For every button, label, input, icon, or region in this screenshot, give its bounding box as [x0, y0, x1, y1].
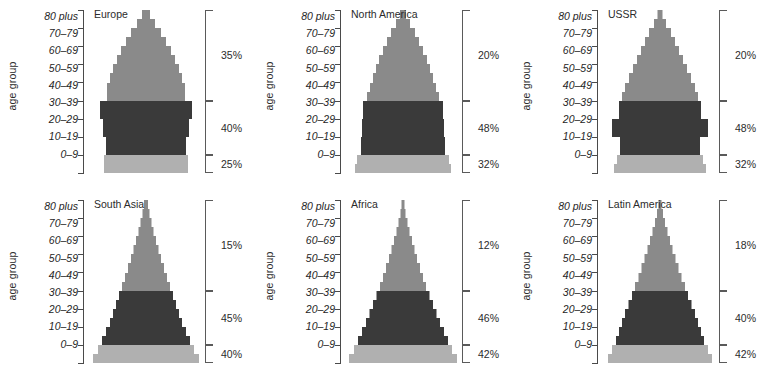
age-band-bar — [122, 282, 170, 291]
age-band-row — [349, 28, 457, 37]
age-band-row — [349, 146, 457, 155]
axis-tick-label: 40–49 — [16, 267, 78, 284]
pyramid-panel: age group80 plus70–7960–6950–5940–4930–3… — [0, 0, 257, 189]
age-band-row — [606, 146, 714, 155]
bracket — [462, 155, 470, 173]
age-band-row — [349, 55, 457, 64]
age-band-bar — [128, 263, 164, 272]
age-band-bar — [110, 318, 182, 327]
axis-tick-label: 10–19 — [16, 318, 78, 335]
bracket-percentage-label: 40% — [735, 312, 756, 324]
age-band-bar — [653, 227, 668, 236]
axis-tick — [592, 363, 598, 364]
axis-tick-label: 40–49 — [273, 77, 335, 94]
age-band-row — [92, 28, 200, 37]
axis-tick — [592, 137, 598, 138]
age-band-bar — [361, 146, 445, 155]
axis-tick-label: 80 plus — [273, 8, 335, 25]
age-band-row — [92, 245, 200, 254]
age-band-bar — [612, 128, 708, 137]
age-band-bar — [639, 273, 682, 282]
age-band-bar — [357, 155, 449, 164]
bar-stack — [606, 10, 714, 173]
age-band-row — [349, 19, 457, 28]
age-band-row — [92, 273, 200, 282]
age-band-row — [606, 55, 714, 64]
axis-tick — [78, 155, 84, 156]
bracket-percentage-label: 15% — [221, 239, 242, 251]
age-band-row — [92, 318, 200, 327]
age-band-bar — [136, 236, 156, 245]
age-band-row — [92, 263, 200, 272]
age-band-bar — [629, 73, 691, 82]
age-band-row — [92, 282, 200, 291]
age-band-bar — [649, 28, 671, 37]
age-band-row — [606, 327, 714, 336]
age-axis: age group80 plus70–7960–6950–5940–4930–3… — [257, 190, 349, 379]
age-band-row — [92, 345, 200, 354]
age-band-bar — [106, 327, 186, 336]
axis-tick-label: 30–39 — [273, 94, 335, 111]
age-band-bar — [619, 110, 701, 119]
bracket-percentage-label: 42% — [735, 348, 756, 360]
axis-tick-label: 60–69 — [16, 42, 78, 59]
age-band-bar — [362, 327, 444, 336]
axis-tick-labels: 80 plus70–7960–6950–5940–4930–3920–2910–… — [16, 8, 78, 163]
axis-tick — [335, 309, 341, 310]
panel-title: Latin America — [608, 198, 672, 210]
bracket-percentage-label: 25% — [221, 158, 242, 170]
age-band-row — [92, 101, 200, 110]
age-band-bar — [358, 336, 448, 345]
bracket — [462, 291, 470, 345]
axis-tick — [335, 291, 341, 292]
axis-tick — [78, 137, 84, 138]
axis-tick — [592, 218, 598, 219]
age-band-bar — [629, 300, 692, 309]
age-band-row — [92, 209, 200, 218]
age-band-bar — [100, 110, 192, 119]
bracket — [205, 291, 213, 345]
bracket — [205, 101, 213, 155]
axis-tick — [78, 254, 84, 255]
age-band-bar — [402, 200, 405, 209]
bracket-percentage-label: 40% — [221, 348, 242, 360]
age-band-row — [349, 101, 457, 110]
age-band-row — [92, 227, 200, 236]
age-band-row — [349, 245, 457, 254]
age-band-row — [606, 291, 714, 300]
age-band-bar — [107, 83, 185, 92]
age-band-bar — [363, 110, 443, 119]
age-band-bar — [144, 200, 148, 209]
age-band-row — [349, 73, 457, 82]
age-band-bar — [394, 236, 412, 245]
bracket-percentage-label: 32% — [478, 158, 499, 170]
bracket — [719, 345, 727, 363]
axis-tick — [592, 291, 598, 292]
age-band-bar — [397, 227, 410, 236]
percentage-brackets: 15%45%40% — [205, 200, 257, 363]
age-band-bar — [642, 263, 679, 272]
age-band-bar — [389, 254, 417, 263]
age-axis: age group80 plus70–7960–6950–5940–4930–3… — [514, 190, 606, 379]
age-band-bar — [373, 73, 433, 82]
age-band-row — [349, 128, 457, 137]
age-band-row — [606, 227, 714, 236]
axis-tick-label: 20–29 — [273, 111, 335, 128]
age-band-row — [606, 273, 714, 282]
pyramid-plot: South Asia — [92, 200, 200, 363]
bracket-percentage-label: 20% — [735, 49, 756, 61]
age-band-bar — [126, 37, 166, 46]
age-band-bar — [645, 37, 675, 46]
age-band-row — [92, 336, 200, 345]
axis-tick-label: 40–49 — [530, 267, 592, 284]
age-band-bar — [100, 101, 192, 110]
age-band-row — [606, 83, 714, 92]
age-axis: age group80 plus70–7960–6950–5940–4930–3… — [0, 0, 92, 189]
age-band-bar — [125, 273, 167, 282]
axis-tick — [592, 254, 598, 255]
axis-tick-label: 40–49 — [530, 77, 592, 94]
bracket — [205, 10, 213, 101]
age-band-bar — [379, 55, 427, 64]
axis-tick-label: 10–19 — [273, 128, 335, 145]
age-band-row — [92, 55, 200, 64]
